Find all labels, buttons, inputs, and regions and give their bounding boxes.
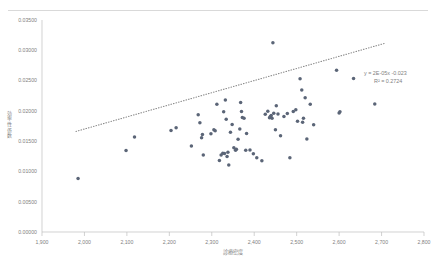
chart-page: 0.000000.005000.010000.015000.020000.025… xyxy=(0,0,436,267)
data-point xyxy=(245,132,249,136)
data-point xyxy=(300,88,304,92)
data-point xyxy=(196,113,200,117)
data-point xyxy=(239,101,243,105)
data-point xyxy=(190,144,194,148)
data-point xyxy=(248,148,252,152)
data-point xyxy=(338,110,342,114)
data-point xyxy=(264,112,268,116)
x-tick-label: 2,600 xyxy=(333,239,346,245)
x-tick-label: 2,500 xyxy=(290,239,303,245)
data-point xyxy=(270,116,274,120)
y-tick-label: 0.02500 xyxy=(18,77,37,83)
data-point xyxy=(335,69,339,73)
data-point xyxy=(302,116,306,120)
data-point xyxy=(224,98,228,102)
x-tick-label: 2,000 xyxy=(78,239,91,245)
y-tick-label: 0.03000 xyxy=(18,47,37,53)
x-tick-label: 2,300 xyxy=(205,239,218,245)
chart-svg: 0.000000.005000.010000.015000.020000.025… xyxy=(0,14,436,267)
data-point xyxy=(222,110,226,114)
data-point xyxy=(373,102,377,106)
data-point xyxy=(301,121,305,125)
data-point xyxy=(229,131,233,135)
data-point xyxy=(201,133,205,137)
y-tick-label: 0.00000 xyxy=(18,229,37,235)
regression-equation-label: y = 2E-05x -0.023 xyxy=(364,70,407,76)
x-tick-label: 1,900 xyxy=(36,239,49,245)
y-axis-tick-labels: 0.000000.005000.010000.015000.020000.025… xyxy=(18,17,37,235)
data-point xyxy=(224,118,228,122)
x-tick-label: 2,800 xyxy=(418,239,431,245)
data-point xyxy=(296,119,300,123)
r-squared-label: R² = 0.2724 xyxy=(374,78,402,84)
data-point xyxy=(242,116,246,120)
data-point xyxy=(236,138,240,142)
data-point xyxy=(198,121,202,125)
data-point xyxy=(244,148,248,152)
header-divider xyxy=(8,10,428,11)
data-point xyxy=(266,109,270,113)
x-axis-tick-labels: 1,9002,0002,1002,2002,3002,4002,5002,600… xyxy=(36,239,431,245)
data-point xyxy=(225,155,229,159)
data-point xyxy=(252,152,256,156)
data-point xyxy=(200,136,204,140)
data-point xyxy=(235,148,239,152)
data-point xyxy=(238,127,242,131)
x-tick-label: 2,100 xyxy=(120,239,133,245)
x-tick-label: 2,200 xyxy=(163,239,176,245)
data-point xyxy=(312,123,316,127)
trendline xyxy=(76,43,386,131)
data-point xyxy=(275,104,279,108)
data-point xyxy=(133,135,137,139)
data-point xyxy=(169,129,173,133)
data-point xyxy=(305,137,309,141)
data-point xyxy=(294,108,298,112)
data-point xyxy=(174,126,178,130)
data-point xyxy=(226,151,230,155)
data-point xyxy=(255,156,259,160)
data-point xyxy=(223,152,227,156)
data-point xyxy=(124,149,128,153)
chart-axes xyxy=(42,20,424,236)
data-point xyxy=(352,77,356,81)
y-tick-label: 0.03500 xyxy=(18,17,37,23)
y-tick-label: 0.00500 xyxy=(18,199,37,205)
data-point xyxy=(260,159,264,163)
data-point xyxy=(76,177,80,181)
data-point xyxy=(309,102,313,106)
y-tick-label: 0.01500 xyxy=(18,138,37,144)
data-points xyxy=(76,41,376,180)
data-point xyxy=(303,96,307,100)
data-point xyxy=(279,134,283,138)
data-point xyxy=(209,132,213,136)
y-tick-label: 0.02000 xyxy=(18,108,37,114)
data-point xyxy=(218,159,222,163)
data-point xyxy=(271,41,275,45)
data-point xyxy=(298,77,302,81)
x-axis-title: 診療密度 xyxy=(223,248,243,256)
trendline-path xyxy=(76,43,386,131)
data-point xyxy=(274,128,278,132)
y-tick-label: 0.01000 xyxy=(18,168,37,174)
y-axis-title-char: 数 xyxy=(7,132,12,139)
data-point xyxy=(213,129,217,133)
y-axis-title: 効率性係数 xyxy=(7,110,12,139)
scatter-chart: 0.000000.005000.010000.015000.020000.025… xyxy=(0,14,436,267)
x-tick-label: 2,700 xyxy=(375,239,388,245)
data-point xyxy=(288,156,292,160)
data-point xyxy=(286,112,290,116)
data-point xyxy=(276,112,280,116)
data-point xyxy=(202,153,206,157)
data-point xyxy=(240,110,244,114)
data-point xyxy=(227,163,231,167)
x-tick-label: 2,400 xyxy=(248,239,261,245)
data-point xyxy=(272,112,276,116)
data-point xyxy=(282,115,286,119)
data-point xyxy=(230,123,234,127)
data-point xyxy=(215,102,219,106)
